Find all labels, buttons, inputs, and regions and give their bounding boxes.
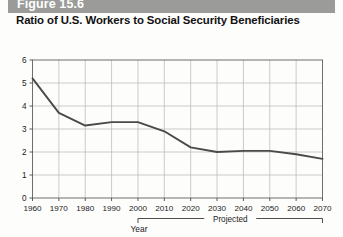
svg-text:Year: Year [131,224,148,234]
data-series-line [33,78,323,158]
chart-gridlines [33,60,323,198]
svg-text:6: 6 [22,56,27,65]
svg-text:2040: 2040 [234,204,253,213]
svg-text:3: 3 [22,125,27,134]
chart-plot-area: 0123456 19601970198019902000201020202030… [0,0,343,237]
x-axis-title: Year [131,224,148,234]
svg-text:5: 5 [22,79,27,88]
svg-text:2030: 2030 [208,204,227,213]
svg-text:2: 2 [22,148,27,157]
svg-text:0: 0 [22,194,27,203]
svg-text:2060: 2060 [287,204,306,213]
svg-text:4: 4 [22,102,27,111]
figure-container: Figure 15.6 Ratio of U.S. Workers to Soc… [0,0,343,237]
svg-text:Projected: Projected [213,215,248,224]
svg-text:1970: 1970 [50,204,69,213]
svg-text:1990: 1990 [103,204,122,213]
svg-text:2010: 2010 [155,204,174,213]
svg-text:2050: 2050 [261,204,280,213]
svg-text:1: 1 [22,171,27,180]
y-axis-tick-labels: 0123456 [22,56,27,203]
projected-bracket: Projected [138,215,323,224]
svg-text:2000: 2000 [129,204,148,213]
svg-text:2020: 2020 [182,204,201,213]
line-chart-svg: 0123456 19601970198019902000201020202030… [0,0,343,237]
svg-text:1980: 1980 [76,204,95,213]
x-axis-tick-labels: 1960197019801990200020102020203020402050… [23,204,332,213]
svg-text:1960: 1960 [23,204,42,213]
svg-text:2070: 2070 [313,204,332,213]
